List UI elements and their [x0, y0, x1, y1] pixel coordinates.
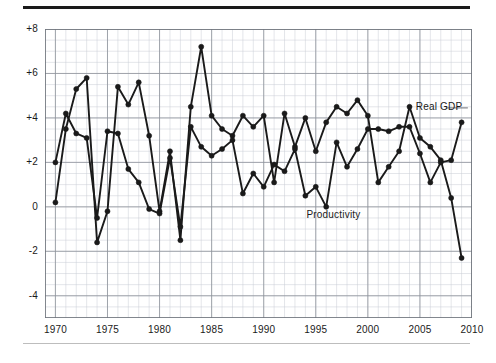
data-point	[63, 111, 68, 116]
data-point	[449, 158, 454, 163]
data-point	[345, 111, 350, 116]
data-point	[261, 113, 266, 118]
data-point	[240, 113, 245, 118]
data-point	[167, 155, 172, 160]
data-point	[84, 135, 89, 140]
data-point	[209, 113, 214, 118]
data-point	[449, 195, 454, 200]
x-tick-label: 1980	[140, 324, 180, 335]
data-point	[53, 200, 58, 205]
data-point	[167, 149, 172, 154]
top-rule	[23, 6, 470, 9]
data-point	[417, 151, 422, 156]
data-point	[303, 115, 308, 120]
x-tick-label: 1990	[244, 324, 284, 335]
line-chart-svg	[45, 29, 472, 318]
data-point	[407, 124, 412, 129]
x-tick-label: 1985	[192, 324, 232, 335]
data-point	[282, 111, 287, 116]
data-point	[74, 131, 79, 136]
x-tick-label: 2000	[348, 324, 388, 335]
data-point	[365, 127, 370, 132]
data-point	[147, 133, 152, 138]
data-point	[261, 184, 266, 189]
figure-container: +8+6+4+20-2-4 19701975198019851990199520…	[0, 0, 496, 363]
data-point	[428, 144, 433, 149]
series-line	[55, 113, 461, 226]
y-tick-label: +8	[4, 23, 38, 34]
data-point	[376, 180, 381, 185]
data-point	[199, 44, 204, 49]
data-point	[272, 180, 277, 185]
data-point	[345, 164, 350, 169]
data-point	[147, 207, 152, 212]
data-point	[230, 138, 235, 143]
data-point	[334, 104, 339, 109]
data-point	[115, 84, 120, 89]
productivity-label: Productivity	[306, 209, 360, 220]
data-point	[365, 113, 370, 118]
data-point	[282, 169, 287, 174]
data-point	[386, 164, 391, 169]
plot-area	[45, 29, 472, 318]
y-tick-label: +4	[4, 112, 38, 123]
data-point	[95, 215, 100, 220]
data-point	[386, 129, 391, 134]
data-point	[178, 238, 183, 243]
data-point	[355, 147, 360, 152]
data-point	[438, 160, 443, 165]
data-point	[84, 75, 89, 80]
x-tick-label: 1975	[87, 324, 127, 335]
data-point	[105, 129, 110, 134]
data-point	[240, 191, 245, 196]
data-point	[199, 144, 204, 149]
data-point	[417, 135, 422, 140]
y-tick-label: +6	[4, 67, 38, 78]
series-real-gdp	[53, 44, 464, 260]
data-point	[136, 180, 141, 185]
y-tick-label: +2	[4, 156, 38, 167]
data-point	[292, 147, 297, 152]
data-point	[313, 149, 318, 154]
data-point	[63, 127, 68, 132]
data-point	[209, 153, 214, 158]
data-point	[376, 127, 381, 132]
data-point	[272, 162, 277, 167]
data-point	[407, 104, 412, 109]
data-point	[53, 160, 58, 165]
data-point	[126, 102, 131, 107]
data-point	[188, 124, 193, 129]
real-gdp-label: Real GDP	[416, 101, 463, 112]
data-point	[397, 149, 402, 154]
data-point	[251, 124, 256, 129]
data-point	[428, 180, 433, 185]
data-point	[95, 240, 100, 245]
data-point	[324, 120, 329, 125]
data-point	[313, 184, 318, 189]
data-point	[459, 120, 464, 125]
y-tick-label: -4	[4, 290, 38, 301]
data-point	[126, 167, 131, 172]
x-tick-label: 2005	[400, 324, 440, 335]
data-point	[105, 209, 110, 214]
data-point	[157, 211, 162, 216]
bottom-rule	[23, 343, 470, 344]
data-point	[220, 127, 225, 132]
data-point	[74, 87, 79, 92]
x-tick-label: 2010	[452, 324, 492, 335]
data-point	[303, 193, 308, 198]
data-point	[188, 104, 193, 109]
x-tick-label: 1995	[296, 324, 336, 335]
y-tick-label: 0	[4, 201, 38, 212]
data-point	[178, 224, 183, 229]
y-tick-label: -2	[4, 245, 38, 256]
data-point	[334, 140, 339, 145]
data-point	[220, 147, 225, 152]
data-point	[459, 255, 464, 260]
data-point	[397, 124, 402, 129]
data-point	[115, 131, 120, 136]
data-point	[251, 171, 256, 176]
grid-minor	[45, 29, 472, 318]
x-tick-label: 1970	[35, 324, 75, 335]
data-point	[355, 98, 360, 103]
